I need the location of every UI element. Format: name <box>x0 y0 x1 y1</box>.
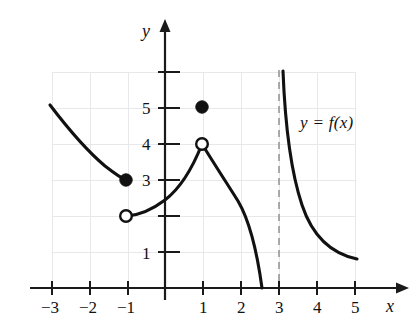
y-tick-label-3: 3 <box>142 172 151 189</box>
function-graph-figure: −3 −2 −1 1 2 3 4 5 1 3 4 5 y x y = f(x) <box>0 0 418 334</box>
y-tick-label-4: 4 <box>142 136 151 153</box>
x-tick-label-5: 5 <box>351 299 360 316</box>
x-tick-label-1: 1 <box>199 299 208 316</box>
x-tick-label--2: −2 <box>79 299 97 316</box>
closed-point--1-3 <box>120 174 132 186</box>
x-tick-label-4: 4 <box>313 299 322 316</box>
curve-right-branch <box>283 71 357 259</box>
x-tick-label-3: 3 <box>275 299 284 316</box>
y-axis-arrowhead <box>160 19 171 32</box>
y-tick-marks <box>158 72 180 252</box>
axes <box>30 30 396 300</box>
x-tick-label--3: −3 <box>41 299 59 316</box>
closed-point-1-5 <box>196 101 208 113</box>
x-tick-label-2: 2 <box>237 299 246 316</box>
function-label: y = f(x) <box>300 114 354 131</box>
open-point--1-2 <box>120 210 132 222</box>
y-axis-label: y <box>142 22 150 40</box>
x-axis-label: x <box>386 297 394 315</box>
y-tick-label-1: 1 <box>142 245 151 262</box>
plot-canvas <box>0 0 418 334</box>
curve-left-branch <box>50 105 126 180</box>
x-tick-label--1: −1 <box>117 299 135 316</box>
open-point-1-4 <box>196 138 208 150</box>
x-axis-arrowhead <box>396 283 409 294</box>
y-tick-label-5: 5 <box>142 100 151 117</box>
